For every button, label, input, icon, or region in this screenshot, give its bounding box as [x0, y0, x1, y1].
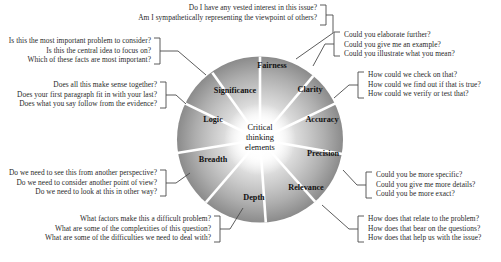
questions-depth: What factors make this a difficult probl… [28, 214, 211, 243]
question-text: Could you give me more details? [376, 180, 501, 190]
question-text: Does your first paragraph fit in with yo… [0, 90, 157, 100]
question-text: Do we need to look at this in other way? [0, 187, 157, 197]
question-text: How does that relate to the problem? [368, 214, 501, 224]
question-text: What are some of the difficulties we nee… [28, 233, 211, 243]
question-text: How does that bear on the questions? [368, 224, 501, 234]
question-text: Is this the central idea to focus on? [0, 46, 151, 56]
question-text: How does that help us with the issue? [368, 233, 501, 243]
connector-logic [160, 82, 186, 108]
question-text: Am I sympathetically representing the vi… [60, 13, 317, 23]
question-text: Do I have any vested interest in this is… [60, 3, 317, 13]
questions-clarity: Could you elaborate further? Could you g… [344, 30, 499, 59]
connector-significance [154, 38, 206, 75]
question-text: Could you elaborate further? [344, 30, 499, 40]
question-text: Does all this make sense together? [0, 80, 157, 90]
question-text: How could we verify or test that? [368, 89, 501, 99]
questions-fairness: Do I have any vested interest in this is… [60, 3, 317, 22]
question-text: Could you be more exact? [376, 189, 501, 199]
connector-relevance [322, 205, 364, 242]
question-text: What are some of the complexities of thi… [28, 224, 211, 234]
question-text: Is this the most important problem to co… [0, 36, 151, 46]
questions-breadth: Do we need to see this from another pers… [0, 168, 157, 197]
connector-depth [214, 208, 243, 242]
question-text: Do we need to see this from another pers… [0, 168, 157, 178]
questions-relevance: How does that relate to the problem? How… [368, 214, 501, 243]
questions-logic: Does all this make sense together? Does … [0, 80, 157, 109]
questions-accuracy: How could we check on that? How could we… [368, 70, 501, 99]
questions-precision: Could you be more specific? Could you gi… [376, 170, 501, 199]
diagram-canvas: Critical thinking elements Fairness Clar… [0, 0, 501, 262]
question-text: How could we check on that? [368, 70, 501, 80]
question-text: Does what you say follow from the eviden… [0, 99, 157, 109]
question-text: Do we need to consider another point of … [0, 178, 157, 188]
connector-breadth [160, 170, 190, 196]
question-text: Which of these facts are most important? [0, 55, 151, 65]
question-text: How could we find out if that is true? [368, 80, 501, 90]
question-text: Could you be more specific? [376, 170, 501, 180]
question-text: What factors make this a difficult probl… [28, 214, 211, 224]
questions-significance: Is this the most important problem to co… [0, 36, 151, 65]
question-text: Could you illustrate what you mean? [344, 49, 499, 59]
connector-accuracy [334, 72, 364, 98]
question-text: Could you give me an example? [344, 40, 499, 50]
connector-precision [343, 170, 372, 198]
